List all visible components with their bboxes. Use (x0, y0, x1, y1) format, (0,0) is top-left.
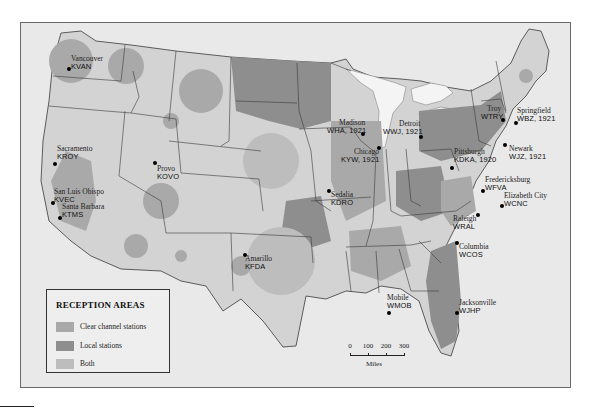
legend-swatch (56, 359, 74, 369)
station-call: KDRO (331, 199, 353, 207)
station-call: WCOS (459, 251, 483, 259)
station-call: KFDA (245, 263, 265, 271)
legend-swatch (56, 341, 74, 351)
station-call: WJHP (459, 307, 481, 315)
legend-label: Both (80, 359, 95, 368)
legend-item-clear-channel: Clear channel stations (56, 321, 146, 332)
scale-tick: 100 (363, 342, 374, 350)
station-call: KVAN (71, 63, 91, 71)
map-legend: RECEPTION AREAS Clear channel stations L… (46, 289, 170, 373)
legend-swatch (56, 322, 74, 332)
station-call: WTRY (481, 113, 503, 121)
station-call: WRAL (453, 223, 475, 231)
station-call: WCNC (504, 200, 528, 208)
station-call: WWJ, 1921 (383, 128, 423, 136)
station-call: KYW, 1921 (341, 156, 379, 164)
station-marker (450, 166, 454, 170)
station-call: WBZ, 1921 (517, 115, 555, 123)
legend-label: Local stations (80, 341, 122, 350)
station-call: KTMS (62, 211, 83, 219)
station-call: WJZ, 1921 (509, 153, 546, 161)
station-call: KOVO (157, 173, 179, 181)
legend-label: Clear channel stations (80, 322, 146, 331)
station-call: KDKA, 1920 (454, 156, 496, 164)
station-marker (53, 162, 57, 166)
scale-tick: 200 (381, 342, 392, 350)
scale-tick: 300 (399, 342, 410, 350)
scale-bar: 0 100 200 300 Miles (346, 342, 414, 372)
scale-line (350, 353, 405, 356)
station-marker (476, 213, 480, 217)
station-marker (503, 143, 507, 147)
legend-title: RECEPTION AREAS (56, 300, 145, 310)
footer-rule (0, 406, 34, 407)
station-call: KROY (57, 153, 79, 161)
scale-tick: 0 (348, 342, 352, 350)
station-call: WMOB (387, 302, 412, 310)
legend-item-local: Local stations (56, 340, 122, 351)
legend-item-both: Both (56, 358, 95, 369)
scale-unit: Miles (366, 360, 382, 368)
station-call: WHA, 1921 (327, 127, 366, 135)
station-marker (387, 311, 391, 315)
